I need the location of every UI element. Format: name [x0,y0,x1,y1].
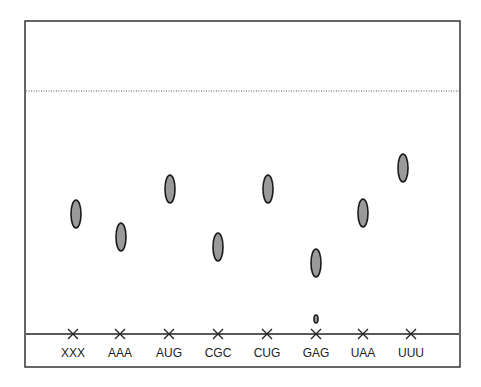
lane-uaa: UAA [351,199,376,360]
lane-aug: AUG [156,175,182,360]
lanes: XXXAAAAUGCGCCUGGAGUAAUUU [61,154,424,360]
spot [311,249,321,277]
spot [263,175,273,203]
spot [71,200,81,228]
lane-label: GAG [303,346,330,360]
lane-xxx: XXX [61,200,85,360]
spot [398,154,408,182]
spot [165,175,175,203]
lane-label: UAA [351,346,376,360]
lane-aaa: AAA [108,223,132,360]
spot [116,223,126,251]
lane-label: AUG [156,346,182,360]
chromatography-diagram: XXXAAAAUGCGCCUGGAGUAAUUU [0,0,481,387]
spot [213,233,223,261]
lane-cgc: CGC [205,233,232,360]
lane-label: XXX [61,346,85,360]
lane-label: AAA [108,346,132,360]
lane-cug: CUG [254,175,281,360]
spot [358,199,368,227]
lane-uuu: UUU [398,154,424,360]
spot [314,315,318,323]
lane-label: CUG [254,346,281,360]
lane-label: UUU [398,346,424,360]
frame [25,21,460,367]
lane-label: CGC [205,346,232,360]
lane-gag: GAG [303,249,330,360]
